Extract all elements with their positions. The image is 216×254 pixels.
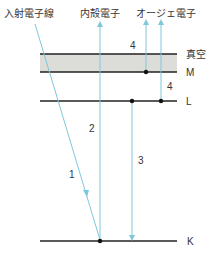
incident-beam-label: 入射電子線 [4,7,54,19]
auger-process-diagram: 入射電子線 内殻電子 オージェ電子 真空 M L K 1 2 3 4 4 [0,0,216,254]
step-3-label: 3 [138,155,144,166]
inner-shell-electron-label: 内殻電子 [80,7,120,19]
vacuum-band [40,54,177,72]
k-level-label: K [187,236,194,247]
l-level-label: L [186,96,192,107]
m-level-label: M [186,67,194,78]
vacuum-level-label: 真空 [186,48,206,60]
step-1-label: 1 [69,169,75,180]
auger-electron-label: オージェ電子 [136,8,196,19]
l-shell-electron-dot-2 [159,99,163,103]
m-shell-electron-dot [144,70,148,74]
step-4-label-lower: 4 [167,81,173,92]
l-shell-electron-dot-1 [130,99,134,103]
k-shell-electron-dot [98,239,102,243]
step-2-label: 2 [89,123,95,134]
step-4-label-upper: 4 [130,40,136,51]
incident-arrowhead-icon [83,190,89,197]
